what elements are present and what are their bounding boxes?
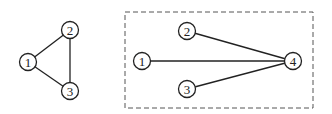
right-graph: 1234 xyxy=(125,12,313,108)
node-label: 4 xyxy=(290,54,297,69)
node-2: 2 xyxy=(62,22,79,39)
node-label: 3 xyxy=(184,82,191,97)
node-label: 2 xyxy=(67,23,74,38)
node-label: 3 xyxy=(67,84,74,99)
node-4: 4 xyxy=(285,53,302,70)
left-graph: 123 xyxy=(20,22,79,100)
graph-diagram: 1231234 xyxy=(0,0,332,114)
node-3: 3 xyxy=(62,83,79,100)
node-3: 3 xyxy=(179,81,196,98)
node-1: 1 xyxy=(134,53,151,70)
node-1: 1 xyxy=(20,54,37,71)
edge-3-4 xyxy=(187,61,293,89)
node-label: 2 xyxy=(184,24,191,39)
node-label: 1 xyxy=(25,55,32,70)
node-2: 2 xyxy=(179,23,196,40)
node-label: 1 xyxy=(139,54,146,69)
edge-2-4 xyxy=(187,31,293,61)
